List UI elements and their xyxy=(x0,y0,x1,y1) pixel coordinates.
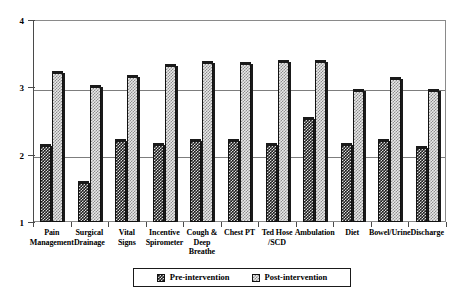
bar-face xyxy=(315,62,326,222)
bar-face xyxy=(52,73,63,222)
bar-cap xyxy=(52,71,63,74)
y-tick-label-4: 4 xyxy=(20,17,25,26)
bar-cap xyxy=(378,139,389,142)
bar-pre-2 xyxy=(78,183,89,222)
bar-cap xyxy=(266,143,277,146)
x-tick-9 xyxy=(371,222,372,227)
bar-pre-5 xyxy=(190,141,201,222)
bar-post-10 xyxy=(390,79,401,222)
bar-face xyxy=(266,145,277,222)
bar-pre-3 xyxy=(115,141,126,222)
category-label-11: Discharge xyxy=(402,228,452,238)
bar-face xyxy=(341,145,352,222)
bar-cap xyxy=(278,60,289,63)
x-tick-10 xyxy=(408,222,409,227)
bar-face xyxy=(353,91,364,222)
bar-chart: 1234 PainManagementSurgicalDrainageVital… xyxy=(0,0,465,292)
x-tick-8 xyxy=(333,222,334,227)
bar-pre-6 xyxy=(228,141,239,222)
bar-face xyxy=(378,141,389,222)
bars-layer xyxy=(33,20,446,222)
y-tick-label-3: 3 xyxy=(20,84,25,93)
bar-cap xyxy=(428,89,439,92)
x-tick-start xyxy=(33,222,34,227)
bar-face xyxy=(416,148,427,222)
bar-face xyxy=(390,79,401,222)
bar-cap xyxy=(416,146,427,149)
bar-cap xyxy=(228,139,239,142)
x-tick-6 xyxy=(258,222,259,227)
bar-side xyxy=(439,91,441,222)
legend-label-pre: Pre-intervention xyxy=(170,273,230,282)
bar-face xyxy=(153,145,164,222)
x-tick-4 xyxy=(183,222,184,227)
bar-pre-11 xyxy=(416,148,427,222)
bar-post-5 xyxy=(202,63,213,222)
bar-cap xyxy=(78,181,89,184)
bar-face xyxy=(78,183,89,222)
bar-post-3 xyxy=(127,77,138,222)
legend-label-post: Post-intervention xyxy=(265,273,328,282)
chart-legend: Pre-intervention Post-intervention xyxy=(133,268,351,287)
category-label-line: Breathe xyxy=(177,247,227,257)
legend-item-post: Post-intervention xyxy=(252,273,328,282)
bar-side xyxy=(364,91,366,222)
bar-cap xyxy=(353,89,364,92)
bar-face xyxy=(303,119,314,222)
legend-swatch-post-icon xyxy=(252,274,260,282)
bar-cap xyxy=(40,144,51,147)
bar-cap xyxy=(127,75,138,78)
bar-post-1 xyxy=(52,73,63,222)
bar-face xyxy=(240,64,251,222)
category-label-line: Deep xyxy=(177,238,227,248)
bar-face xyxy=(40,146,51,222)
bar-face xyxy=(127,77,138,222)
bar-post-11 xyxy=(428,91,439,222)
bar-side xyxy=(63,73,65,222)
legend-item-pre: Pre-intervention xyxy=(157,273,230,282)
bar-post-6 xyxy=(240,64,251,222)
bar-cap xyxy=(165,64,176,67)
x-tick-7 xyxy=(296,222,297,227)
legend-swatch-pre-icon xyxy=(157,274,165,282)
y-tick-label-1: 1 xyxy=(20,219,25,228)
bar-post-7 xyxy=(278,62,289,222)
bar-cap xyxy=(190,139,201,142)
bar-face xyxy=(228,141,239,222)
bar-post-4 xyxy=(165,66,176,222)
bar-cap xyxy=(202,61,213,64)
bar-cap xyxy=(153,143,164,146)
bar-post-2 xyxy=(90,87,101,222)
bar-cap xyxy=(390,77,401,80)
bar-pre-9 xyxy=(341,145,352,222)
x-tick-5 xyxy=(221,222,222,227)
bar-cap xyxy=(303,117,314,120)
bar-face xyxy=(278,62,289,222)
x-tick-3 xyxy=(146,222,147,227)
bar-face xyxy=(202,63,213,222)
bar-post-9 xyxy=(353,91,364,222)
bar-side xyxy=(176,66,178,222)
bar-pre-7 xyxy=(266,145,277,222)
bar-side xyxy=(289,62,291,222)
bar-cap xyxy=(341,143,352,146)
bar-pre-4 xyxy=(153,145,164,222)
bar-cap xyxy=(240,62,251,65)
category-label-line: /SCD xyxy=(252,238,302,248)
bar-face xyxy=(90,87,101,222)
bar-face xyxy=(190,141,201,222)
bar-post-8 xyxy=(315,62,326,222)
bar-cap xyxy=(90,85,101,88)
bar-pre-1 xyxy=(40,146,51,222)
bar-face xyxy=(115,141,126,222)
x-tick-2 xyxy=(108,222,109,227)
bar-pre-10 xyxy=(378,141,389,222)
category-label-line: Discharge xyxy=(402,228,452,238)
bar-cap xyxy=(115,139,126,142)
x-tick-1 xyxy=(71,222,72,227)
bar-side xyxy=(138,77,140,222)
bar-pre-8 xyxy=(303,119,314,222)
bar-side xyxy=(401,79,403,222)
bar-cap xyxy=(315,60,326,63)
bar-face xyxy=(165,66,176,222)
